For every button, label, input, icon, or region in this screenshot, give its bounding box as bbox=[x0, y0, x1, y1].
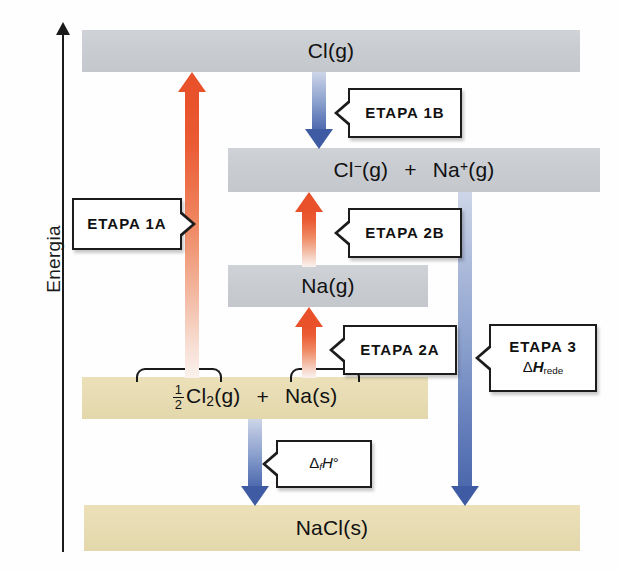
energy-level-cl-g-label: Cl(g) bbox=[308, 39, 355, 63]
arrow-etapa-2b bbox=[295, 192, 323, 267]
arrowhead-down-icon bbox=[451, 486, 479, 506]
energy-level-na-g-label: Na(g) bbox=[301, 274, 355, 298]
energy-level-nacl-s-label: NaCl(s) bbox=[296, 516, 369, 540]
arrow-shaft bbox=[302, 325, 316, 378]
arrow-etapa-1b bbox=[305, 72, 333, 149]
arrowhead-down-icon bbox=[305, 129, 333, 149]
arrow-shaft bbox=[312, 72, 326, 131]
arrowhead-down-icon bbox=[241, 486, 269, 506]
energy-level-reactants-label: 12Cl2(g)+Na(s) bbox=[173, 384, 338, 412]
callout-etapa-1a: ETAPA 1A bbox=[72, 198, 182, 250]
callout-etapa-2a: ETAPA 2A bbox=[343, 325, 457, 375]
energy-level-nacl-s: NaCl(s) bbox=[84, 505, 580, 551]
energy-level-cl-minus-na-plus: Cl−(g)+Na+(g) bbox=[228, 148, 600, 192]
one-half-fraction: 12 bbox=[173, 383, 184, 411]
callout-etapa-2b-label: ETAPA 2B bbox=[365, 224, 444, 243]
arrowhead-up-icon bbox=[178, 72, 206, 92]
energy-axis-label: Energia bbox=[43, 199, 65, 319]
arrow-shaft bbox=[248, 419, 262, 488]
callout-etapa-3: ETAPA 3 ΔHrede bbox=[489, 324, 597, 392]
arrowhead-up-icon bbox=[295, 192, 323, 212]
energy-level-cl-na-ion-label: Cl−(g)+Na+(g) bbox=[333, 158, 494, 182]
energy-level-cl-g: Cl(g) bbox=[82, 30, 580, 72]
arrowhead-up-icon bbox=[295, 307, 323, 327]
energy-level-reactants: 12Cl2(g)+Na(s) bbox=[82, 377, 428, 419]
formation-enthalpy-symbol: ΔfH° bbox=[309, 453, 339, 474]
callout-etapa-2b: ETAPA 2B bbox=[348, 208, 462, 258]
callout-etapa-1b: ETAPA 1B bbox=[348, 88, 462, 138]
born-haber-cycle-diagram: Energia Cl(g) Cl−(g)+Na+(g) Na(g) 12Cl2(… bbox=[0, 0, 620, 571]
callout-etapa-2a-label: ETAPA 2A bbox=[360, 341, 439, 360]
energy-level-na-g: Na(g) bbox=[228, 265, 428, 307]
callout-formation-enthalpy: ΔfH° bbox=[276, 440, 372, 488]
arrow-etapa-2a bbox=[295, 307, 323, 378]
callout-etapa-1a-label: ETAPA 1A bbox=[87, 215, 166, 234]
callout-etapa-3-lattice-enthalpy: ΔHrede bbox=[523, 357, 564, 378]
callout-etapa-3-label: ETAPA 3 bbox=[509, 338, 577, 357]
arrow-shaft bbox=[302, 210, 316, 267]
callout-etapa-1b-label: ETAPA 1B bbox=[365, 104, 444, 123]
